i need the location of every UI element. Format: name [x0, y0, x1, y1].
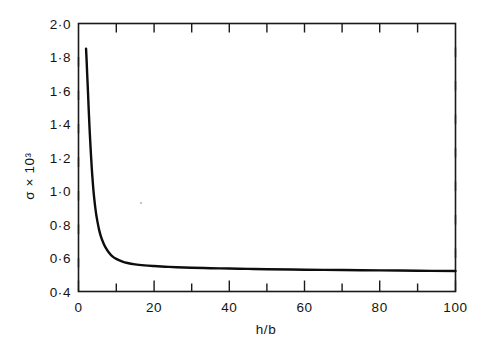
- x-axis-ticks-top: [116, 24, 417, 33]
- y-tick-label-1-2: 1·2: [50, 151, 71, 166]
- y-tick-label-2-0: 2·0: [50, 17, 71, 32]
- line-chart: 2·0 1·8 1·6 1·4 1·2 1·0 0·8 0·6 0·4 0 20…: [0, 0, 489, 352]
- x-tick-label-60: 60: [296, 300, 312, 315]
- x-tick-label-0: 0: [74, 300, 82, 315]
- y-tick-label-1-4: 1·4: [50, 117, 71, 132]
- y-tick-label-1-6: 1·6: [50, 84, 71, 99]
- paper-speck: [140, 202, 142, 204]
- figure-container: 2·0 1·8 1·6 1·4 1·2 1·0 0·8 0·6 0·4 0 20…: [0, 0, 489, 352]
- y-tick-label-0-8: 0·8: [50, 218, 71, 233]
- y-tick-label-0-6: 0·6: [50, 251, 71, 266]
- x-axis-title: h/b: [256, 322, 277, 337]
- y-tick-label-1-8: 1·8: [50, 50, 71, 65]
- y-axis-title: σ × 10³: [22, 152, 37, 199]
- x-tick-label-100: 100: [443, 300, 467, 315]
- x-tick-label-80: 80: [372, 300, 388, 315]
- plot-frame: [79, 24, 456, 292]
- x-tick-label-20: 20: [146, 300, 162, 315]
- x-axis-ticks-bottom: [79, 281, 456, 292]
- x-tick-label-40: 40: [221, 300, 237, 315]
- y-tick-label-0-4: 0·4: [50, 285, 71, 300]
- y-tick-label-1-0: 1·0: [50, 184, 71, 199]
- data-curve-sigma: [86, 49, 455, 271]
